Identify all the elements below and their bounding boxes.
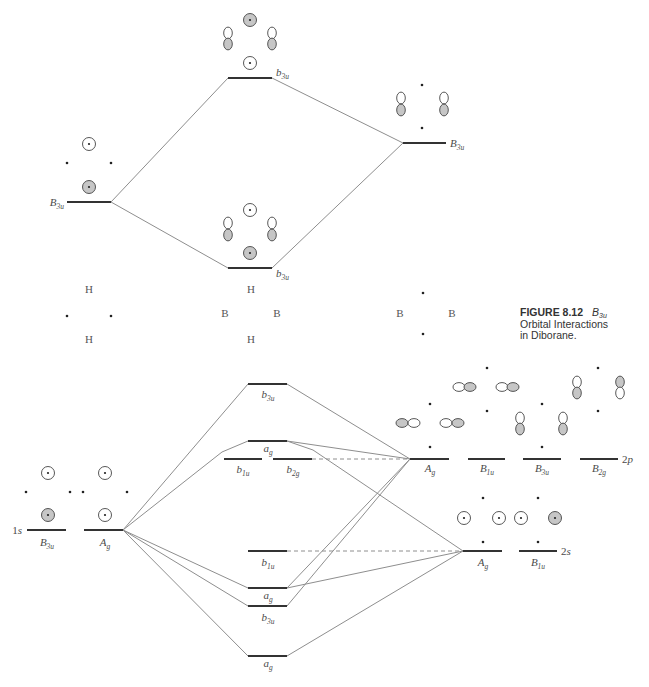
label-subscript: 2g [292,469,300,478]
p-orbital-lobe-icon [440,92,449,104]
nucleus-dot-icon [421,84,424,87]
nucleus-dot-icon [66,162,69,165]
p-orbital-lobe-icon [516,423,525,435]
nucleus-dot-icon [66,315,69,318]
nucleus-dot-icon [537,497,540,500]
p-orbital-lobe-icon [268,38,277,50]
level-label: B3u [40,536,54,551]
level-label: Ag [424,462,436,477]
shell-letter: s [567,545,571,557]
level-label: b2g [287,463,300,478]
p-orbital-lobe-icon [464,383,476,392]
atom-label: B [396,307,403,319]
label-subscript: g [269,448,273,457]
label-subscript: 3u [281,72,290,81]
caption-line-3: in Diborane. [520,330,608,342]
nucleus-dot-icon [541,403,544,406]
nucleus-dot-icon [126,491,129,494]
correlation-line [287,459,410,588]
label-subscript: g [269,595,273,604]
level-label: ag [263,657,273,672]
level-label: Ag [477,556,489,571]
figure-number: FIGURE 8.12 [520,306,583,318]
correlation-line [123,384,248,530]
atom-label: H [85,333,93,345]
label-subscript: 3u [46,542,55,551]
level-label: b3u [276,66,289,81]
atom-label: B [221,307,228,319]
p-orbital-lobe-icon [224,27,233,39]
correlation-line [123,441,248,530]
level-label: Ag [99,536,111,551]
correlation-line [111,202,228,268]
nucleus-dot-icon [88,143,90,145]
p-orbital-lobe-icon [397,92,406,104]
upper-diagram-b3u-interaction: B3ub3ub3uB3uHHHBBHBB [50,14,465,346]
p-orbital-lobe-icon [559,423,568,435]
atom-label: B [448,307,455,319]
nucleus-dot-icon [82,491,85,494]
label-subscript: g [484,562,488,571]
p-orbital-lobe-icon [440,419,452,428]
label-subscript: 2g [599,468,607,477]
nucleus-dot-icon [104,472,106,474]
p-orbital-lobe-icon [453,383,465,392]
nucleus-dot-icon [110,315,113,318]
nucleus-dot-icon [486,410,489,413]
correlation-line [287,459,410,606]
level-label: B1u [531,556,545,571]
p-orbital-lobe-icon [408,419,420,428]
nucleus-dot-icon [110,162,113,165]
nucleus-dot-icon [422,333,425,336]
p-orbital-lobe-icon [224,217,233,229]
correlation-line [123,530,248,656]
label-subscript: g [106,542,110,551]
nucleus-dot-icon [249,62,251,64]
p-orbital-lobe-icon [559,412,568,424]
nucleus-dot-icon [463,517,465,519]
nucleus-dot-icon [249,209,251,211]
label-subscript: g [269,663,273,672]
symmetry-main: B [592,306,599,318]
nucleus-dot-icon [249,19,251,21]
level-label: b1u [262,556,275,571]
ao-shell-label: 1s [12,524,22,536]
label-subscript: 1u [487,468,495,477]
nucleus-dot-icon [554,517,556,519]
label-subscript: 3u [456,143,465,152]
p-orbital-lobe-icon [396,419,408,428]
label-subscript: 1u [242,469,250,478]
correlation-line [123,530,248,606]
level-label: b1u [237,463,250,478]
p-orbital-lobe-icon [397,104,406,116]
p-orbital-lobe-icon [452,419,464,428]
p-orbital-lobe-icon [440,104,449,116]
p-orbital-lobe-icon [616,387,625,399]
level-label: B2g [592,462,606,477]
nucleus-dot-icon [541,446,544,449]
level-label: b3u [262,611,275,626]
level-label: ag [263,442,273,457]
nucleus-dot-icon [429,403,432,406]
label-subscript: 1u [267,562,275,571]
shell-letter: s [18,524,22,536]
atom-label: H [85,283,93,295]
nucleus-dot-icon [104,514,106,516]
p-orbital-lobe-icon [224,38,233,50]
lower-diagram-diborane-mo: B3uAgb3uagb1ub2gb1uagb3uagAgB1uB3uB2gAgB… [12,367,633,672]
label-subscript: 3u [281,273,290,282]
nucleus-dot-icon [421,127,424,130]
p-orbital-lobe-icon [268,229,277,241]
caption-symmetry-label: B3u [592,306,607,318]
p-orbital-lobe-icon [496,383,508,392]
correlation-line [287,441,410,459]
correlation-line [272,78,403,143]
level-label: ag [263,589,273,604]
nucleus-dot-icon [597,410,600,413]
nucleus-dot-icon [597,367,600,370]
level-label: B3u [450,137,464,152]
correlation-line [111,78,228,202]
nucleus-dot-icon [498,517,500,519]
p-orbital-lobe-icon [268,27,277,39]
nucleus-dot-icon [69,491,72,494]
